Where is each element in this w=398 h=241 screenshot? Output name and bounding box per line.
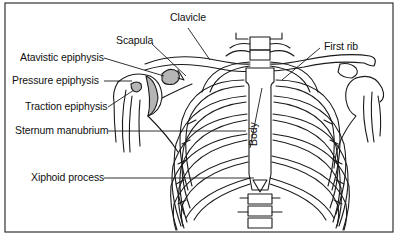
diagram-container: Clavicle Scapula First rib Atavistic epi…	[0, 0, 398, 241]
thoracic-vertebrae-lower	[238, 194, 282, 228]
label-pressure-epiphysis: Pressure epiphysis	[12, 74, 99, 86]
label-scapula: Scapula	[116, 34, 153, 46]
label-clavicle: Clavicle	[170, 11, 206, 23]
pressure-epiphysis-shape	[146, 76, 158, 116]
atavistic-epiphysis-shape	[162, 69, 179, 84]
right-rib-cage	[270, 80, 349, 230]
thorax-illustration	[0, 0, 398, 241]
leader-lines	[104, 28, 320, 178]
label-atavistic-epiphysis: Atavistic epiphysis	[20, 51, 104, 63]
label-first-rib: First rib	[324, 40, 358, 52]
leader-traction	[108, 90, 134, 107]
label-body: Body	[247, 122, 259, 146]
label-traction-epiphysis: Traction epiphysis	[25, 100, 107, 112]
left-rib-cage	[171, 80, 250, 230]
leader-clavicle	[188, 28, 210, 60]
label-xiphoid-process: Xiphoid process	[31, 171, 104, 183]
cervical-vertebrae	[226, 33, 294, 60]
label-sternum-manubrium: Sternum manubrium	[15, 124, 108, 136]
diagram-frame	[5, 3, 393, 232]
